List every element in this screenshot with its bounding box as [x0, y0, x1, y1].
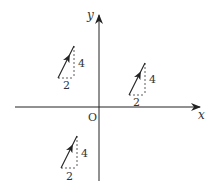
run-label: 2: [133, 96, 140, 109]
vector-line: [58, 46, 74, 78]
origin-label: O: [88, 111, 97, 124]
run-label: 2: [66, 170, 73, 183]
rise-label: 4: [81, 147, 88, 160]
run-label: 2: [63, 79, 70, 92]
y-axis-label: y: [86, 8, 94, 22]
rise-label: 4: [149, 73, 156, 86]
x-axis-label: x: [198, 108, 205, 122]
vector-right: 4 2: [129, 63, 156, 109]
vector-lower-left: 4 2: [61, 136, 88, 183]
rise-label: 4: [78, 57, 85, 70]
vector-line: [61, 136, 77, 168]
vector-line: [129, 63, 145, 95]
vector-diagram: y x O 4 2 4 2 4 2: [0, 0, 213, 192]
vector-upper-left: 4 2: [58, 46, 85, 92]
diagram-svg: y x O 4 2 4 2 4 2: [0, 0, 213, 192]
